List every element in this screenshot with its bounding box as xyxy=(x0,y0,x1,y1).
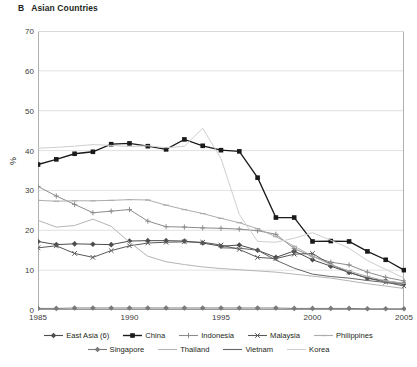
x-axis-tick-label: 2005 xyxy=(395,313,413,322)
legend-label: East Asia (6) xyxy=(66,331,109,340)
chart-legend-row-1: East Asia (6)ChinaIndonesiaMalaysiaPhili… xyxy=(0,331,417,340)
legend-label: Thailand xyxy=(180,345,209,354)
legend-item-vietnam[interactable]: Vietnam xyxy=(223,345,273,354)
legend-swatch xyxy=(248,331,267,340)
chart-series xyxy=(38,137,406,272)
legend-label: Philippines xyxy=(336,331,373,340)
legend-item-indonesia[interactable]: Indonesia xyxy=(179,331,234,340)
x-axis-tick-label: 2000 xyxy=(304,313,322,322)
legend-swatch xyxy=(88,345,107,354)
y-axis-tick-label: 20 xyxy=(8,226,34,235)
y-axis-tick-label: 40 xyxy=(8,146,34,155)
legend-marker-icon xyxy=(314,331,333,340)
legend-marker-icon xyxy=(179,331,198,340)
legend-item-east-asia-6[interactable]: East Asia (6) xyxy=(44,331,109,340)
legend-marker-icon xyxy=(123,331,142,340)
x-axis-tick-label: 1990 xyxy=(121,313,139,322)
legend-swatch xyxy=(158,345,177,354)
legend-item-korea[interactable]: Korea xyxy=(287,345,329,354)
legend-marker-icon xyxy=(287,345,306,354)
legend-marker-icon xyxy=(88,345,107,354)
legend-marker-icon xyxy=(248,331,267,340)
chart-series xyxy=(38,305,406,311)
legend-swatch xyxy=(314,331,333,340)
y-axis-tick-label: 30 xyxy=(8,186,34,195)
legend-item-singapore[interactable]: Singapore xyxy=(88,345,145,354)
legend-swatch xyxy=(44,331,63,340)
legend-swatch xyxy=(223,345,242,354)
legend-label: Indonesia xyxy=(201,331,234,340)
y-axis-tick-label: 60 xyxy=(8,66,34,75)
legend-label: Korea xyxy=(309,345,329,354)
legend-swatch xyxy=(287,345,306,354)
legend-marker-icon xyxy=(44,331,63,340)
legend-label: China xyxy=(145,331,165,340)
chart-plot-area xyxy=(38,31,404,310)
legend-item-malaysia[interactable]: Malaysia xyxy=(248,331,300,340)
chart-legend-row-2: SingaporeThailandVietnamKorea xyxy=(0,345,417,354)
legend-swatch xyxy=(123,331,142,340)
legend-marker-icon xyxy=(158,345,177,354)
panel-title-text: Asian Countries xyxy=(31,3,98,13)
x-axis-tick-label: 1985 xyxy=(29,313,47,322)
chart-svg xyxy=(38,31,406,312)
x-axis-tick-label: 1995 xyxy=(212,313,230,322)
legend-item-thailand[interactable]: Thailand xyxy=(158,345,209,354)
y-axis-ticks: 010203040506070 xyxy=(4,0,34,367)
legend-item-china[interactable]: China xyxy=(123,331,165,340)
legend-marker-icon xyxy=(223,345,242,354)
legend-label: Malaysia xyxy=(270,331,300,340)
legend-swatch xyxy=(179,331,198,340)
legend-label: Singapore xyxy=(110,345,145,354)
y-axis-tick-label: 10 xyxy=(8,266,34,275)
y-axis-tick-label: 70 xyxy=(8,27,34,36)
y-axis-tick-label: 50 xyxy=(8,106,34,115)
legend-label: Vietnam xyxy=(245,345,273,354)
legend-item-philippines[interactable]: Philippines xyxy=(314,331,373,340)
